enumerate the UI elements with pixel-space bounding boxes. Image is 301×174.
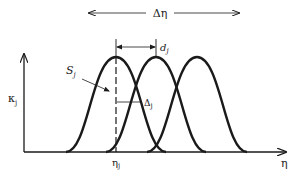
s-j-label: Sj [66, 64, 77, 79]
y-axis-label: κj [8, 92, 17, 107]
diagram-canvas: Δη κj η ηj dj Sj Δj [0, 0, 301, 174]
delta-eta-span: Δη [89, 7, 239, 20]
eta-j-label: ηj [112, 157, 120, 170]
width-marker: Δj [117, 98, 153, 110]
d-j-label: dj [160, 42, 169, 55]
curve-2 [106, 57, 206, 152]
delta-eta-label: Δη [153, 7, 168, 20]
curve-3 [147, 57, 247, 152]
bell-curves [66, 57, 247, 152]
x-axis-label: η [281, 157, 288, 170]
spacing-marker: dj [116, 39, 169, 57]
delta-j-label: Δj [144, 98, 153, 110]
